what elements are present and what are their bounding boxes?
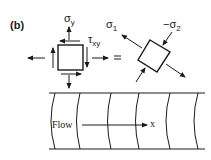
wavefront-curve-3 [108, 93, 112, 149]
wavefront-curve-4 [136, 93, 140, 149]
wavefront-curve-5 [166, 93, 170, 149]
minus-sigma2-label: −σ2 [163, 19, 181, 30]
sigma1-arrow-lower-right [166, 64, 185, 77]
sigma1-arrow-upper-left [122, 35, 142, 48]
sigma1-label: σ1 [106, 19, 117, 30]
panel-label: (b) [10, 20, 24, 31]
sigma-y-label: σy [64, 13, 75, 24]
sigma2-arrow-lower-left [136, 68, 145, 82]
flow-label: Flow [52, 120, 73, 130]
wavefront-curve-2 [77, 93, 81, 149]
stress-element-square [58, 45, 83, 70]
sigma2-arrow-upper-right [163, 32, 172, 45]
tau-xy-label: τxy [88, 34, 100, 45]
principal-element-square [138, 40, 170, 72]
wavefront-curve-6 [194, 93, 198, 149]
x-axis-label: x [150, 119, 155, 129]
stress-diagram-figure: (b) σy τxy σ1 −σ2 Flow x [0, 0, 211, 160]
